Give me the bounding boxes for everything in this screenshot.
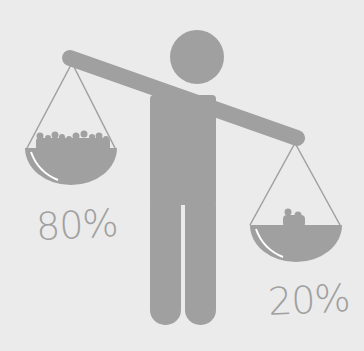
- left-scale-pan: [25, 63, 117, 185]
- small-group-icon: [283, 209, 305, 228]
- left-leg: [150, 190, 181, 325]
- crowd-icon: [36, 131, 110, 151]
- right-scale-pan: [250, 143, 342, 262]
- right-leg: [185, 190, 216, 325]
- head: [170, 30, 224, 84]
- left-percentage-label: 80%: [35, 201, 119, 249]
- right-percentage-label: 20%: [267, 276, 351, 324]
- torso: [150, 95, 216, 205]
